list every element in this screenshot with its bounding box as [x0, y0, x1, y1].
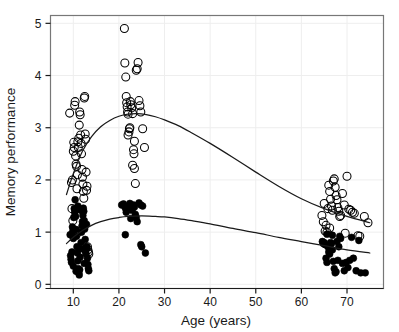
data-point-filled: [77, 207, 84, 214]
data-point-filled: [139, 203, 146, 210]
data-point-filled: [355, 237, 362, 244]
data-point-filled: [85, 267, 92, 274]
y-tick-label: 3: [35, 121, 42, 135]
x-tick-label: 40: [203, 295, 217, 309]
chart-background: [0, 0, 399, 332]
data-point-filled: [82, 236, 89, 243]
data-point-filled: [138, 243, 145, 250]
data-point-filled: [72, 213, 79, 220]
y-tick-label: 1: [35, 226, 42, 240]
x-tick-label: 60: [295, 295, 309, 309]
data-point-filled: [134, 218, 141, 225]
x-tick-label: 10: [67, 295, 81, 309]
data-point-filled: [324, 259, 331, 266]
memory-performance-vs-age-chart: 10203040506070 012345 Age (years) Memory…: [0, 0, 399, 332]
data-point-filled: [333, 268, 340, 275]
y-tick-label: 4: [35, 69, 42, 83]
y-tick-label: 5: [35, 17, 42, 31]
y-axis-title: Memory performance: [3, 88, 18, 216]
x-tick-label: 70: [340, 295, 354, 309]
data-point-filled: [329, 232, 336, 239]
data-point-filled: [142, 250, 149, 257]
data-point-filled: [350, 255, 357, 262]
data-point-filled: [348, 234, 355, 241]
data-point-filled: [73, 268, 80, 275]
scatter-plot-figure: 10203040506070 012345 Age (years) Memory…: [0, 0, 399, 332]
x-tick-label: 30: [158, 295, 172, 309]
x-tick-label: 50: [249, 295, 263, 309]
data-point-filled: [362, 269, 369, 276]
data-point-filled: [334, 238, 341, 245]
data-point-filled: [81, 260, 88, 267]
data-point-filled: [84, 243, 91, 250]
y-tick-label: 0: [35, 278, 42, 292]
data-point-filled: [345, 264, 352, 271]
data-point-filled: [72, 196, 79, 203]
data-point-filled: [122, 231, 129, 238]
x-tick-label: 20: [112, 295, 126, 309]
x-axis-title: Age (years): [181, 313, 251, 328]
y-tick-label: 2: [35, 173, 42, 187]
